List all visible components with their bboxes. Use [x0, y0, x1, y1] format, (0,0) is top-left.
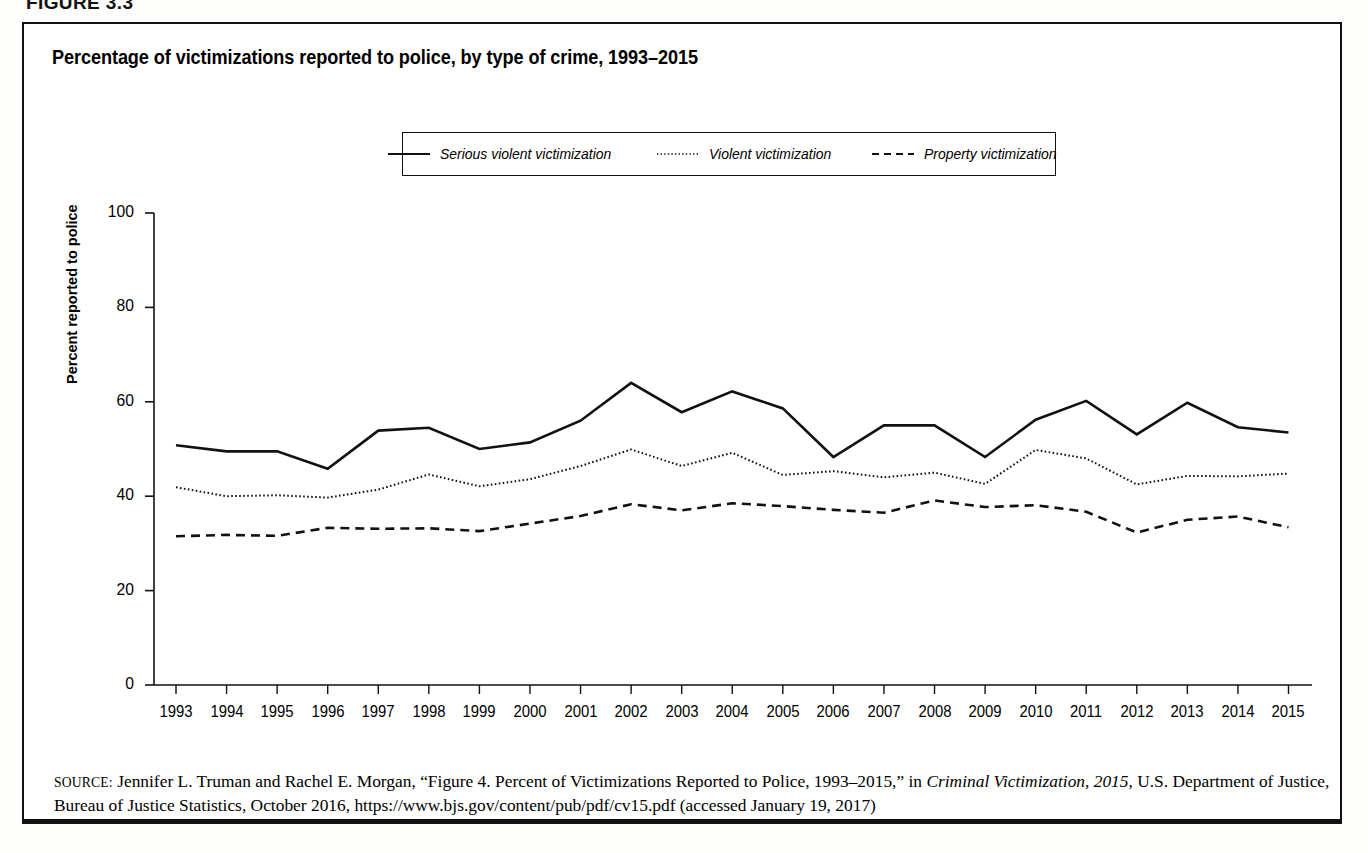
- source-prefix: SOURCE:: [54, 775, 113, 790]
- x-axis-tick-label: 2015: [1262, 703, 1314, 721]
- x-axis-tick-label: 2012: [1111, 703, 1163, 721]
- x-axis-tick-label: 2011: [1060, 703, 1112, 721]
- source-text-part1: Jennifer L. Truman and Rachel E. Morgan,…: [113, 771, 927, 791]
- series-line: [176, 383, 1288, 469]
- figure-container: Percentage of victimizations reported to…: [22, 22, 1342, 824]
- y-axis-tick-label: 100: [90, 202, 134, 221]
- x-axis-tick-label: 1995: [251, 703, 303, 721]
- x-axis-tick-label: 2004: [706, 703, 758, 721]
- source-note: SOURCE: Jennifer L. Truman and Rachel E.…: [54, 770, 1346, 817]
- x-axis-tick-label: 2000: [504, 703, 556, 721]
- x-axis-tick-label: 2009: [959, 703, 1011, 721]
- x-axis-tick-label: 2007: [858, 703, 910, 721]
- line-chart-svg: [24, 24, 1340, 724]
- x-axis-tick-label: 1999: [453, 703, 505, 721]
- x-axis-tick-label: 2013: [1161, 703, 1213, 721]
- series-line: [176, 500, 1288, 536]
- x-axis-tick-label: 1993: [150, 703, 202, 721]
- y-axis-tick-label: 20: [90, 580, 134, 599]
- x-axis-tick-label: 1994: [201, 703, 253, 721]
- x-axis-tick-label: 2005: [757, 703, 809, 721]
- y-axis-tick-label: 60: [90, 391, 134, 410]
- source-publication-title: Criminal Victimization, 2015: [926, 771, 1128, 791]
- x-axis-tick-label: 2010: [1010, 703, 1062, 721]
- x-axis-tick-label: 2001: [554, 703, 606, 721]
- chart-plot-area: Serious violent victimization Violent vi…: [24, 24, 1340, 724]
- x-axis-tick-label: 1997: [352, 703, 404, 721]
- figure-number-label: FIGURE 3.3: [26, 0, 133, 14]
- y-axis-tick-label: 40: [90, 485, 134, 504]
- x-axis-tick-label: 2003: [656, 703, 708, 721]
- x-axis-tick-label: 1998: [403, 703, 455, 721]
- x-axis-tick-label: 1996: [302, 703, 354, 721]
- x-axis-tick-label: 2006: [807, 703, 859, 721]
- x-axis-tick-label: 2002: [605, 703, 657, 721]
- x-axis-tick-label: 2008: [908, 703, 960, 721]
- x-axis-tick-label: 2014: [1212, 703, 1264, 721]
- y-axis-tick-label: 80: [90, 296, 134, 315]
- y-axis-tick-label: 0: [90, 674, 134, 693]
